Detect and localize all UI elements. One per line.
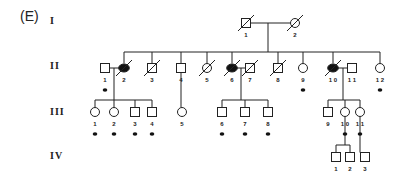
- carrier-dot-icon: [358, 132, 363, 136]
- individual-number: 9: [301, 77, 305, 83]
- individual-number: 5: [180, 121, 184, 127]
- individual-number: 1: [93, 121, 97, 127]
- carrier-dot-icon: [93, 132, 98, 136]
- individual-number: 1: [244, 32, 248, 38]
- individual-ii-1-male-square: [101, 64, 110, 73]
- carrier-dot-icon: [301, 88, 306, 92]
- individual-iii-7-male-square: [241, 108, 250, 117]
- individual-iii-9-male-square: [324, 108, 333, 117]
- individual-number: 7: [243, 121, 247, 127]
- individual-iii-8-male-square: [264, 108, 273, 117]
- individual-iii-2-female-circle: [110, 108, 119, 117]
- individual-number: 1 2: [376, 77, 385, 83]
- carrier-dot-icon: [150, 132, 155, 136]
- pedigree-chart: 121234567891 01 11 21234567891 01 1123: [0, 0, 404, 173]
- carrier-dot-icon: [243, 132, 248, 136]
- carrier-dot-icon: [133, 132, 138, 136]
- individual-number: 2: [122, 77, 126, 83]
- individual-number: 6: [220, 121, 224, 127]
- individual-number: 2: [293, 32, 297, 38]
- individual-number: 1: [103, 77, 107, 83]
- individual-number: 4: [179, 77, 183, 83]
- individual-number: 3: [150, 77, 154, 83]
- individual-number: 2: [348, 166, 352, 172]
- individual-number: 7: [248, 77, 252, 83]
- individual-ii-12-female-circle: [376, 64, 385, 73]
- carrier-dot-icon: [112, 132, 117, 136]
- individual-iii-5-female-circle: [178, 108, 187, 117]
- individual-iv-2-male-square: [346, 153, 355, 162]
- carrier-dot-icon: [220, 132, 225, 136]
- individual-ii-9-female-circle: [299, 64, 308, 73]
- individual-iii-1-female-circle: [91, 108, 100, 117]
- carrier-dot-icon: [266, 132, 271, 136]
- individual-number: 1 0: [329, 77, 338, 83]
- individual-ii-4-male-square: [177, 64, 186, 73]
- carrier-dot-icon: [343, 132, 348, 136]
- individual-number: 1 0: [341, 121, 350, 127]
- carrier-dot-icon: [103, 88, 108, 92]
- individual-number: 2: [112, 121, 116, 127]
- individual-number: 1 1: [348, 77, 357, 83]
- individual-iii-6-male-square: [218, 108, 227, 117]
- individual-iv-3-male-square: [361, 153, 370, 162]
- individual-number: 9: [326, 121, 330, 127]
- individual-iii-4-male-square: [148, 108, 157, 117]
- individual-number: 1: [334, 166, 338, 172]
- individual-iv-1-male-square: [332, 153, 341, 162]
- individual-number: 3: [363, 166, 367, 172]
- individual-number: 4: [150, 121, 154, 127]
- individual-number: 5: [205, 77, 209, 83]
- individual-iii-11-female-circle: [356, 108, 365, 117]
- individual-number: 1 1: [356, 121, 365, 127]
- individual-iii-3-male-square: [131, 108, 140, 117]
- individual-number: 6: [230, 77, 234, 83]
- individual-number: 8: [276, 77, 280, 83]
- carrier-dot-icon: [378, 88, 383, 92]
- individual-number: 8: [266, 121, 270, 127]
- individual-number: 3: [133, 121, 137, 127]
- individual-iii-10-female-circle: [341, 108, 350, 117]
- individual-ii-11-male-square: [348, 64, 357, 73]
